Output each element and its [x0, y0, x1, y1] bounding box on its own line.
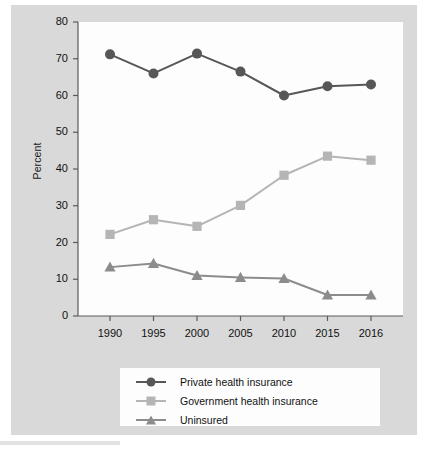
chart-figure: Percent 01020304050607080 19901995200020… [11, 5, 417, 435]
circle-marker-icon [134, 375, 168, 389]
y-tick-label: 70 [34, 53, 68, 64]
legend-label: Uninsured [180, 414, 228, 426]
axes [73, 22, 403, 321]
legend-item[interactable]: Government health insurance [134, 391, 318, 410]
y-tick-label: 10 [34, 273, 68, 284]
page-edge-artifact [0, 441, 120, 445]
data-series [104, 49, 376, 300]
x-tick-label: 1995 [129, 328, 179, 339]
legend-label: Government health insurance [180, 395, 318, 407]
x-tick-label: 2015 [303, 328, 353, 339]
y-tick-label: 60 [34, 90, 68, 101]
chart-legend: Private health insuranceGovernment healt… [120, 368, 380, 426]
x-tick-label: 1990 [85, 328, 135, 339]
square-marker-icon [134, 394, 168, 408]
legend-item[interactable]: Uninsured [134, 410, 228, 429]
y-tick-label: 50 [34, 126, 68, 137]
y-tick-label: 40 [34, 163, 68, 174]
y-tick-label: 20 [34, 237, 68, 248]
y-tick-label: 0 [34, 310, 68, 321]
x-tick-label: 2016 [346, 328, 396, 339]
y-tick-label: 30 [34, 200, 68, 211]
x-tick-label: 2000 [172, 328, 222, 339]
legend-item[interactable]: Private health insurance [134, 372, 293, 391]
legend-label: Private health insurance [180, 376, 293, 388]
x-tick-label: 2010 [259, 328, 309, 339]
y-tick-label: 80 [34, 16, 68, 27]
x-tick-label: 2005 [216, 328, 266, 339]
triangle-marker-icon [134, 413, 168, 427]
